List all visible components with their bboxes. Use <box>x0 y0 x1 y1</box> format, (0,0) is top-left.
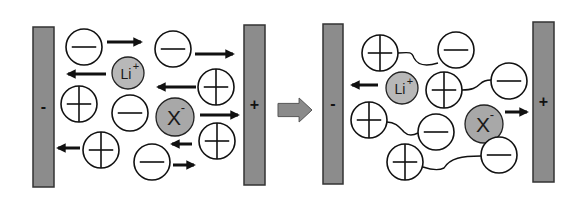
cation-plus-icon <box>198 69 234 105</box>
negative-electrode-sign: - <box>41 98 46 115</box>
negative-electrode: - <box>323 24 343 184</box>
anion-minus-icon <box>491 63 527 99</box>
negative-electrode-sign: - <box>330 95 335 112</box>
anion-minus-icon <box>112 95 148 131</box>
anion-minus-icon <box>134 144 170 180</box>
lithium-ion-icon: Li+ <box>112 57 144 89</box>
cation-plus-icon <box>387 144 423 180</box>
ion-charge: - <box>490 107 494 122</box>
cation-plus-icon <box>199 123 235 159</box>
cation-plus-icon <box>351 102 387 138</box>
ion-pair-link <box>423 156 481 169</box>
cation-plus-icon <box>426 72 462 108</box>
anion-minus-icon <box>66 29 102 65</box>
positive-electrode: + <box>244 25 265 185</box>
counter-anion-icon: X- <box>156 98 194 136</box>
ion-symbol: X <box>167 106 181 129</box>
cation-plus-icon <box>61 86 97 122</box>
ion-pair-link <box>398 53 438 65</box>
positive-electrode: + <box>533 22 554 182</box>
lithium-ion-icon: Li+ <box>386 72 418 104</box>
ion-pairs-panel: -+Li+X- <box>323 22 554 184</box>
anion-minus-icon <box>481 137 517 173</box>
transition-arrow-icon <box>278 98 312 122</box>
positive-electrode-sign: + <box>539 93 548 110</box>
ion-symbol: Li <box>121 66 132 82</box>
electrolyte-ion-diagram: -+Li+X- -+Li+X- <box>0 0 578 202</box>
ion-charge: - <box>181 100 185 115</box>
ion-charge: + <box>407 75 413 87</box>
cation-plus-icon <box>362 35 398 71</box>
negative-electrode: - <box>33 27 54 187</box>
ion-symbol: Li <box>395 81 406 97</box>
ion-pair-link <box>387 122 418 135</box>
cation-plus-icon <box>83 132 119 168</box>
free-ions-panel: -+Li+X- <box>33 25 265 187</box>
ion-charge: + <box>133 60 139 72</box>
positive-electrode-sign: + <box>250 96 259 113</box>
anion-minus-icon <box>418 114 454 150</box>
ion-pair-link <box>462 80 491 90</box>
anion-minus-icon <box>155 31 191 67</box>
ion-symbol: X <box>476 113 490 136</box>
anion-minus-icon <box>438 32 474 68</box>
